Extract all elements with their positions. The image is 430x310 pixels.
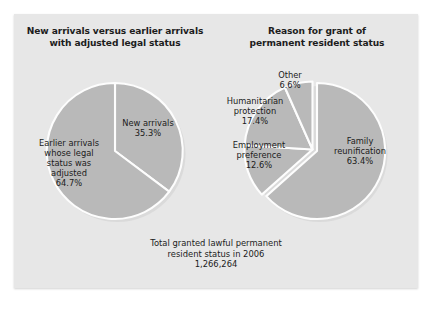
chart-panel-new-vs-earlier-arrivals: New arrivals versus earlier arrivals wit… (14, 14, 216, 254)
figure-caption: Total granted lawful permanent resident … (14, 238, 418, 270)
pie-label-other: Other 6.6% (263, 70, 317, 90)
pie-label-earlier-arrivals-line-5: 64.7% (23, 178, 115, 188)
pie-label-family-reunification-line-2: reunification (312, 146, 408, 156)
pie-label-family-reunification: Family reunification 63.4% (312, 136, 408, 166)
figure-panel: New arrivals versus earlier arrivals wit… (14, 14, 418, 288)
pie-label-humanitarian-protection-line-1: Humanitarian (212, 96, 298, 106)
pie-label-other-line-2: 6.6% (263, 80, 317, 90)
pie-label-new-arrivals-line-1: New arrivals (102, 118, 194, 128)
pie-label-employment-preference: Employment preference 12.6% (218, 140, 300, 170)
pie-chart-right: Family reunification 63.4% Other 6.6% Hu… (216, 14, 418, 254)
pie-chart-left: New arrivals 35.3% Earlier arrivals whos… (14, 14, 216, 254)
pie-label-earlier-arrivals-line-2: whose legal (23, 148, 115, 158)
pie-label-employment-preference-line-2: preference (218, 150, 300, 160)
pie-label-employment-preference-line-1: Employment (218, 140, 300, 150)
pie-label-new-arrivals-line-2: 35.3% (102, 128, 194, 138)
pie-label-humanitarian-protection: Humanitarian protection 17.4% (212, 96, 298, 126)
pie-label-humanitarian-protection-line-3: 17.4% (212, 116, 298, 126)
pie-label-other-line-1: Other (263, 70, 317, 80)
chart-panel-reason-for-grant: Reason for grant of permanent resident s… (216, 14, 418, 254)
figure-caption-total-value: 1,266,264 (14, 259, 418, 270)
pie-label-earlier-arrivals-line-1: Earlier arrivals (23, 138, 115, 148)
pie-label-family-reunification-line-3: 63.4% (312, 156, 408, 166)
pie-label-earlier-arrivals-line-3: status was (23, 158, 115, 168)
pie-label-earlier-arrivals-line-4: adjusted (23, 168, 115, 178)
figure-caption-line-2: resident status in 2006 (14, 249, 418, 260)
figure-caption-line-1: Total granted lawful permanent (14, 238, 418, 249)
pie-label-earlier-arrivals: Earlier arrivals whose legal status was … (23, 138, 115, 188)
pie-label-employment-preference-line-3: 12.6% (218, 160, 300, 170)
pie-label-family-reunification-line-1: Family (312, 136, 408, 146)
pie-label-new-arrivals: New arrivals 35.3% (102, 118, 194, 138)
pie-label-humanitarian-protection-line-2: protection (212, 106, 298, 116)
